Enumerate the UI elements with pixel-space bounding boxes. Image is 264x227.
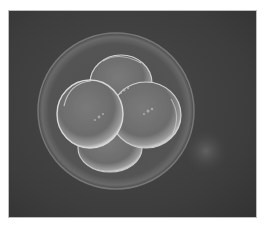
blastomere-left bbox=[57, 80, 123, 148]
embryo-illustration bbox=[9, 11, 257, 218]
caption bbox=[10, 218, 254, 227]
embryo-photo bbox=[8, 10, 257, 218]
